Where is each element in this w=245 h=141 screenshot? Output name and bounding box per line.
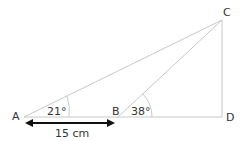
point-label-D: D — [226, 112, 234, 123]
line-AC — [24, 20, 222, 117]
angle-arc-A — [67, 96, 69, 117]
point-label-B: B — [112, 106, 120, 117]
line-BC — [118, 20, 222, 117]
angle-label-A: 21° — [47, 106, 67, 117]
angle-label-B: 38° — [131, 106, 151, 117]
point-label-C: C — [223, 7, 231, 18]
triangle-diagram — [0, 0, 245, 141]
point-label-A: A — [12, 111, 20, 122]
length-arrow — [25, 119, 115, 127]
length-label: 15 cm — [55, 128, 89, 139]
